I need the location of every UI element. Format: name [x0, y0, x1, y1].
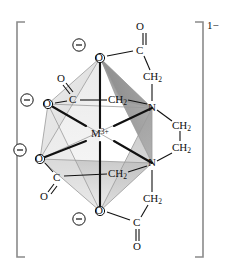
- group-c-top-right: C: [136, 45, 143, 56]
- atom-o-left-upper: O: [43, 98, 51, 109]
- group-o-upper-left: O: [57, 73, 65, 84]
- molecule-figure: 1− O O O O N N M3+ C O CH2 C O CH2 CH2 C…: [0, 0, 226, 275]
- ch2-text: CH: [143, 192, 158, 204]
- ch2-text: CH: [172, 119, 187, 131]
- ch2-text: CH: [172, 141, 187, 153]
- metal-charge: 3+: [101, 127, 109, 136]
- bracket-right: [195, 22, 203, 257]
- ch2-subscript: 2: [123, 172, 127, 181]
- ch2-text: CH: [108, 93, 123, 105]
- atom-o-top: O: [95, 52, 103, 63]
- group-ch2-bottom-right: CH2: [143, 193, 162, 206]
- ch2-text: CH: [108, 167, 123, 179]
- atom-o-bottom: O: [95, 205, 103, 216]
- metal-center-label: M3+: [91, 128, 109, 139]
- atom-o-left-lower: O: [35, 153, 43, 164]
- structure-svg: [0, 0, 226, 275]
- ch2-subscript: 2: [123, 98, 127, 107]
- group-o-bottom-right: O: [133, 241, 141, 252]
- ch2-subscript: 2: [158, 197, 162, 206]
- group-o-lower-left: O: [40, 191, 48, 202]
- group-c-upper-left: C: [69, 94, 76, 105]
- group-c-lower-left: C: [53, 172, 60, 183]
- overall-charge-label: 1−: [207, 20, 219, 31]
- ch2-text: CH: [143, 70, 158, 82]
- ch2-subscript: 2: [187, 124, 191, 133]
- group-ch2-right-lower: CH2: [172, 142, 191, 155]
- atom-n-lower: N: [148, 157, 156, 168]
- atom-n-upper: N: [148, 102, 156, 113]
- group-ch2-right-upper: CH2: [172, 120, 191, 133]
- group-ch2-upper-inner: CH2: [108, 94, 127, 107]
- group-ch2-top-right: CH2: [143, 71, 162, 84]
- group-c-bottom-right: C: [133, 217, 140, 228]
- ch2-subscript: 2: [158, 75, 162, 84]
- metal-symbol: M: [91, 127, 101, 139]
- group-o-top-right: O: [136, 21, 144, 32]
- group-ch2-lower-inner: CH2: [108, 168, 127, 181]
- bracket-left: [17, 22, 25, 257]
- ch2-subscript: 2: [187, 146, 191, 155]
